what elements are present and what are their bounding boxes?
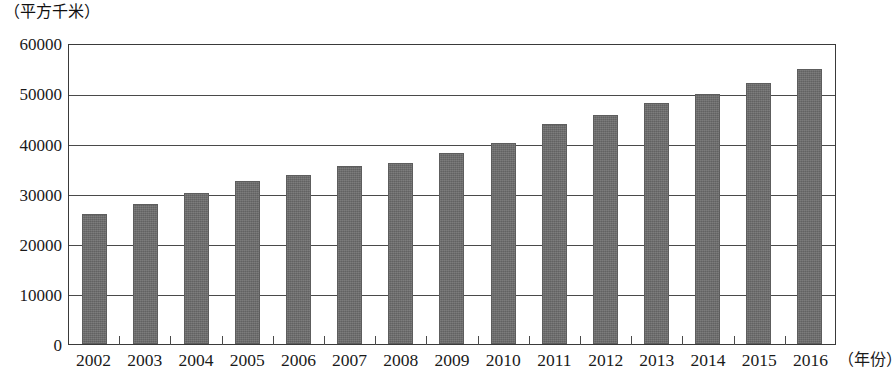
bar-series [69,45,835,344]
x-tick-label-2005: 2005 [222,349,273,371]
bar-slot [733,45,784,344]
bar-slot [120,45,171,344]
x-tick-label-2010: 2010 [478,349,529,371]
y-tick-label-50000: 50000 [0,86,62,103]
bar-slot [631,45,682,344]
bar-2004 [184,193,209,345]
bar-2013 [644,103,669,344]
x-tick-label-2003: 2003 [119,349,170,371]
y-tick-label-30000: 30000 [0,187,62,204]
x-tick-label-2006: 2006 [273,349,324,371]
bar-slot [222,45,273,344]
x-tick-label-2015: 2015 [734,349,785,371]
x-axis-tick-labels: 2002200320042005200620072008200920102011… [68,349,836,371]
x-tick-label-2012: 2012 [580,349,631,371]
plot-area [68,44,836,345]
bar-slot [324,45,375,344]
x-axis-title: （年份） [838,349,892,371]
x-tick-label-2002: 2002 [68,349,119,371]
bar-2014 [695,94,720,344]
x-tick-label-2011: 2011 [529,349,580,371]
bar-slot [273,45,324,344]
y-tick-label-10000: 10000 [0,287,62,304]
bar-2011 [542,124,567,344]
x-tick-label-2004: 2004 [170,349,221,371]
bar-slot [682,45,733,344]
y-tick-label-20000: 20000 [0,237,62,254]
bar-slot [580,45,631,344]
bar-slot [375,45,426,344]
y-tick-label-40000: 40000 [0,137,62,154]
bar-slot [478,45,529,344]
x-tick-label-2013: 2013 [631,349,682,371]
x-tick-label-2009: 2009 [426,349,477,371]
bar-slot [529,45,580,344]
x-tick-label-2007: 2007 [324,349,375,371]
bar-2015 [746,83,771,344]
x-tick-label-2016: 2016 [785,349,836,371]
bar-2008 [388,163,413,344]
bar-chart: （平方千米） 60000 50000 40000 30000 20000 100… [0,0,892,379]
y-tick-label-60000: 60000 [0,36,62,53]
bar-2007 [337,166,362,344]
bar-slot [784,45,835,344]
y-tick-label-0: 0 [0,337,62,354]
x-tick-label-2014: 2014 [682,349,733,371]
bar-2003 [133,204,158,344]
bar-2010 [491,143,516,344]
bar-slot [171,45,222,344]
bar-2002 [82,214,107,344]
bar-2005 [235,181,260,344]
bar-slot [69,45,120,344]
y-axis-tick-labels: 60000 50000 40000 30000 20000 10000 0 [0,0,62,379]
bar-2016 [797,69,822,344]
bar-2012 [593,115,618,344]
x-tick-label-2008: 2008 [375,349,426,371]
bar-2009 [439,153,464,344]
bar-slot [426,45,477,344]
bar-2006 [286,175,311,344]
